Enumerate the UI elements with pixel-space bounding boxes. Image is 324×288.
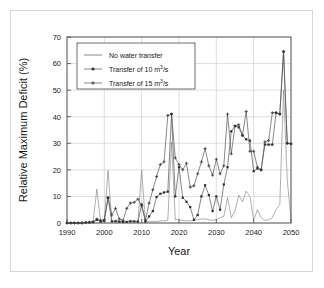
data-point-marker — [226, 112, 229, 115]
data-point-marker — [268, 144, 270, 146]
data-point-marker — [218, 172, 221, 175]
y-tick-label: 50 — [53, 86, 61, 95]
data-point-marker — [192, 184, 195, 187]
y-tick-label: 60 — [53, 59, 61, 68]
data-point-marker — [159, 193, 161, 195]
data-point-marker — [182, 197, 184, 199]
data-point-marker — [137, 221, 139, 223]
data-point-marker — [245, 138, 247, 140]
data-point-marker — [140, 204, 143, 207]
data-point-marker — [152, 210, 154, 212]
data-point-marker — [204, 184, 206, 186]
data-point-marker — [167, 191, 169, 193]
data-point-marker — [174, 195, 176, 197]
data-point-marker — [215, 158, 218, 161]
data-point-marker — [151, 188, 154, 191]
data-point-marker — [222, 164, 225, 167]
data-point-marker — [144, 219, 147, 222]
data-point-marker — [215, 195, 217, 197]
data-point-marker — [193, 219, 195, 221]
y-axis-title: Relative Maximum Deficit (%) — [17, 58, 29, 202]
data-point-marker — [129, 220, 131, 222]
x-tick-label: 2010 — [133, 228, 150, 237]
data-point-marker — [286, 142, 289, 145]
data-point-marker — [170, 112, 173, 115]
data-point-marker — [267, 139, 270, 142]
x-tick-label: 2040 — [245, 228, 262, 237]
data-point-marker — [111, 220, 113, 222]
legend-label-0: No water transfer — [109, 52, 163, 59]
data-point-marker — [223, 183, 225, 185]
x-tick-label: 2000 — [96, 228, 113, 237]
data-point-marker — [148, 201, 151, 204]
y-axis-tick-labels: 010203040506070 — [53, 33, 61, 228]
data-point-marker — [204, 147, 207, 150]
data-point-marker — [185, 201, 187, 203]
y-tick-label: 40 — [53, 113, 61, 122]
y-tick-label: 30 — [53, 139, 61, 148]
data-point-marker — [282, 50, 285, 53]
x-axis-title: Year — [168, 245, 191, 257]
data-point-marker — [245, 110, 248, 113]
data-point-marker — [230, 152, 233, 155]
data-point-marker — [230, 130, 232, 132]
y-tick-label: 20 — [53, 166, 61, 175]
data-point-marker — [252, 150, 255, 153]
data-point-marker — [114, 220, 116, 222]
data-point-marker — [208, 194, 210, 196]
data-point-marker — [253, 170, 255, 172]
data-point-marker — [156, 196, 158, 198]
y-tick-label: 10 — [53, 192, 61, 201]
data-point-marker — [163, 191, 165, 193]
data-point-marker — [189, 186, 192, 189]
data-point-marker — [118, 221, 120, 223]
data-point-marker — [155, 175, 158, 178]
legend-label-1: Transfer of 10 m3/s — [109, 64, 169, 73]
data-point-marker — [118, 217, 121, 220]
data-point-marker — [185, 162, 188, 165]
data-point-marker — [174, 156, 177, 159]
data-point-marker — [237, 123, 240, 126]
data-point-marker — [271, 111, 274, 114]
x-tick-label: 1990 — [59, 228, 76, 237]
relative-maximum-deficit-chart: 1990200020102020203020402050 01020304050… — [11, 11, 312, 271]
data-point-marker — [212, 210, 214, 212]
data-point-marker — [114, 207, 117, 210]
y-tick-label: 70 — [53, 33, 61, 42]
data-point-marker — [226, 166, 228, 168]
data-point-marker — [84, 221, 87, 224]
data-point-marker — [148, 215, 150, 217]
data-point-marker — [271, 144, 273, 146]
y-tick-label: 0 — [57, 219, 61, 228]
x-axis-tick-labels: 1990200020102020203020402050 — [59, 228, 300, 237]
data-point-marker — [196, 172, 199, 175]
data-point-marker — [274, 111, 277, 114]
data-point-marker — [219, 209, 221, 211]
data-point-marker — [207, 164, 210, 167]
data-point-marker — [133, 220, 135, 222]
x-tick-label: 2050 — [283, 228, 300, 237]
data-point-marker — [200, 195, 202, 197]
legend: No water transferTransfer of 10 m3/sTran… — [77, 43, 195, 89]
x-tick-label: 2030 — [208, 228, 225, 237]
data-point-marker — [197, 214, 199, 216]
figure-container: 1990200020102020203020402050 01020304050… — [10, 10, 313, 272]
data-point-marker — [200, 160, 203, 163]
x-tick-label: 2020 — [171, 228, 188, 237]
data-point-marker — [121, 219, 124, 222]
data-point-marker — [178, 166, 180, 168]
data-point-marker — [189, 206, 191, 208]
legend-label-2: Transfer of 15 m3/s — [109, 78, 169, 87]
data-point-marker — [278, 112, 281, 115]
data-point-marker — [211, 174, 214, 177]
